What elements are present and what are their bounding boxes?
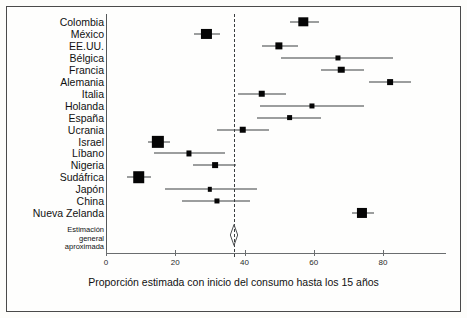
point-estimate-marker xyxy=(152,135,164,147)
x-tick-label: 20 xyxy=(171,258,180,267)
row-label: EE.UU. xyxy=(69,40,104,51)
point-estimate-marker xyxy=(208,187,212,191)
x-tick xyxy=(106,250,107,256)
x-tick xyxy=(175,250,176,256)
point-estimate-marker xyxy=(387,79,393,85)
forest-plot-figure: 020406080 ColombiaMéxicoEE.UU.BélgicaFra… xyxy=(0,0,467,318)
x-tick xyxy=(383,250,384,256)
x-tick-label: 0 xyxy=(104,258,108,267)
row-label: Nueva Zelanda xyxy=(33,208,104,219)
row-label: Israel xyxy=(78,136,104,147)
row-label: España xyxy=(68,112,104,123)
point-estimate-marker xyxy=(187,151,192,156)
row-label: México xyxy=(71,28,104,39)
point-estimate-marker xyxy=(212,162,218,168)
row-label: Ucrania xyxy=(68,124,104,135)
x-axis-line xyxy=(106,253,446,254)
summary-row-label: Estimación general aproximada xyxy=(65,226,104,252)
row-label: Francia xyxy=(69,64,104,75)
x-tick-label: 60 xyxy=(309,258,318,267)
point-estimate-marker xyxy=(357,208,367,218)
row-label: Japón xyxy=(75,184,104,195)
x-tick-label: 80 xyxy=(379,258,388,267)
row-label: China xyxy=(77,196,104,207)
row-label: Italia xyxy=(82,88,104,99)
x-tick-label: 40 xyxy=(240,258,249,267)
point-estimate-marker xyxy=(240,126,247,133)
row-label: Sudáfrica xyxy=(60,172,104,183)
point-estimate-marker xyxy=(133,172,145,184)
point-estimate-marker xyxy=(214,199,219,204)
point-estimate-marker xyxy=(287,115,293,121)
point-estimate-marker xyxy=(309,103,314,108)
plot-area: 020406080 ColombiaMéxicoEE.UU.BélgicaFra… xyxy=(0,0,467,318)
point-estimate-marker xyxy=(338,67,345,74)
point-estimate-marker xyxy=(201,29,211,39)
point-estimate-marker xyxy=(335,55,340,60)
row-label: Colombia xyxy=(60,17,104,28)
row-label: Nigeria xyxy=(71,160,104,171)
x-axis-title: Proporción estimada con inicio del consu… xyxy=(0,276,467,288)
y-axis-line xyxy=(106,14,107,253)
row-label: Alemania xyxy=(60,76,104,87)
point-estimate-marker xyxy=(299,17,308,26)
x-tick xyxy=(245,250,246,256)
x-tick xyxy=(314,250,315,256)
point-estimate-marker xyxy=(259,90,266,97)
row-label: Holanda xyxy=(65,100,104,111)
row-label: Bélgica xyxy=(70,52,104,63)
summary-diamond xyxy=(230,224,239,246)
row-label: Líbano xyxy=(72,148,104,159)
point-estimate-marker xyxy=(276,42,283,49)
reference-line xyxy=(234,14,235,257)
